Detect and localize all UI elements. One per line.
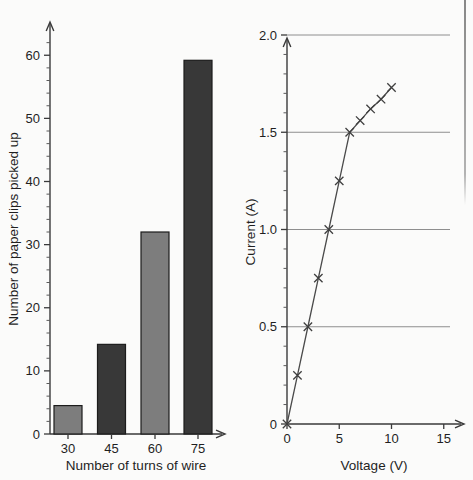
line-y-tick-label: 1.5 bbox=[259, 125, 277, 140]
line-y-axis-title: Current (A) bbox=[243, 199, 258, 266]
bar-y-tick-label: 60 bbox=[26, 48, 40, 63]
line-y-tick-label: 2.0 bbox=[259, 28, 277, 43]
line-data-marker bbox=[356, 116, 364, 124]
line-x-tick-label: 0 bbox=[283, 431, 290, 446]
bar-y-ticks: 0102030405060 bbox=[26, 43, 50, 442]
bar-x-tick-label: 30 bbox=[61, 441, 75, 456]
line-gridlines bbox=[287, 35, 450, 327]
line-path bbox=[287, 88, 392, 424]
line-x-ticks: 051015 bbox=[283, 424, 451, 446]
line-x-tick-label: 10 bbox=[384, 431, 398, 446]
line-y-tick-label: 0 bbox=[270, 417, 277, 432]
bar-rect bbox=[98, 344, 126, 434]
bar-y-tick-label: 0 bbox=[33, 427, 40, 442]
bar-y-tick-label: 40 bbox=[26, 174, 40, 189]
bar-x-axis-title: Number of turns of wire bbox=[66, 458, 206, 473]
line-y-tick-label: 0.5 bbox=[259, 319, 277, 334]
bar-y-axis-title: Number of paper clips picked up bbox=[6, 132, 21, 326]
bar-y-tick-label: 30 bbox=[26, 237, 40, 252]
bar-rect bbox=[54, 406, 82, 434]
bar-y-tick-label: 20 bbox=[26, 300, 40, 315]
line-x-tick-label: 15 bbox=[437, 431, 451, 446]
line-data-marker bbox=[377, 95, 385, 103]
line-data-marker bbox=[366, 105, 374, 113]
line-x-axis-title: Voltage (V) bbox=[341, 458, 408, 473]
bar-chart: 0102030405060 30456075 Number of turns o… bbox=[0, 0, 236, 480]
line-series bbox=[283, 83, 396, 428]
bar-rect bbox=[184, 60, 212, 434]
bar-x-tick-label: 60 bbox=[148, 441, 162, 456]
line-x-tick-label: 5 bbox=[336, 431, 343, 446]
line-y-ticks: 00.51.01.52.0 bbox=[259, 28, 287, 432]
bar-x-tick-labels: 30456075 bbox=[61, 434, 205, 456]
bar-x-tick-label: 45 bbox=[104, 441, 118, 456]
bar-y-tick-label: 50 bbox=[26, 111, 40, 126]
bar-rect bbox=[141, 232, 169, 434]
figure-page: 0102030405060 30456075 Number of turns o… bbox=[0, 0, 473, 480]
line-chart: 00.51.01.52.0 051015 Voltage (V) Current… bbox=[236, 0, 473, 480]
line-y-tick-label: 1.0 bbox=[259, 222, 277, 237]
bar-x-tick-label: 75 bbox=[191, 441, 205, 456]
line-data-marker bbox=[387, 83, 395, 91]
bar-series bbox=[54, 60, 212, 434]
bar-y-tick-label: 10 bbox=[26, 363, 40, 378]
